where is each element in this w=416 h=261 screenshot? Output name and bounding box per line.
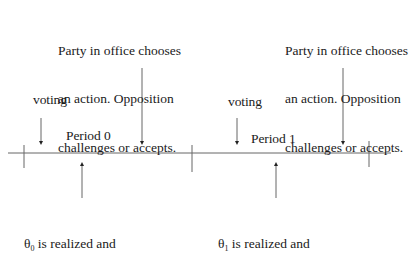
action-text-line: Party in office chooses	[58, 43, 181, 59]
arrowhead-down-icon	[235, 141, 239, 145]
voting-label-period-0: voting	[33, 92, 67, 108]
action-text-line: Party in office chooses	[285, 43, 408, 59]
theta-subscript: 0	[30, 244, 34, 253]
realization-text: is realized and	[34, 236, 115, 251]
realization-line-1: θ1 is realized and	[218, 236, 310, 254]
action-text-line: challenges or accepts.	[285, 140, 408, 156]
period-label-0: Period 0	[66, 128, 111, 144]
action-text-line: an action. Opposition	[58, 91, 181, 107]
realization-annotation-period-0: θ0 is realized and observed by the polit…	[24, 203, 116, 261]
realization-line-1: θ0 is realized and	[24, 236, 116, 254]
realization-text: is realized and	[228, 236, 309, 251]
action-annotation-period-0: Party in office chooses an action. Oppos…	[58, 10, 181, 173]
voting-label-period-1: voting	[228, 94, 262, 110]
action-annotation-period-1: Party in office chooses an action. Oppos…	[285, 10, 408, 173]
arrowhead-up-icon	[274, 162, 278, 166]
period-label-1: Period 1	[251, 131, 296, 147]
realization-annotation-period-1: θ1 is realized and observed by the polit…	[218, 203, 310, 261]
arrowhead-down-icon	[39, 141, 43, 145]
action-text-line: an action. Opposition	[285, 91, 408, 107]
theta-subscript: 1	[224, 244, 228, 253]
